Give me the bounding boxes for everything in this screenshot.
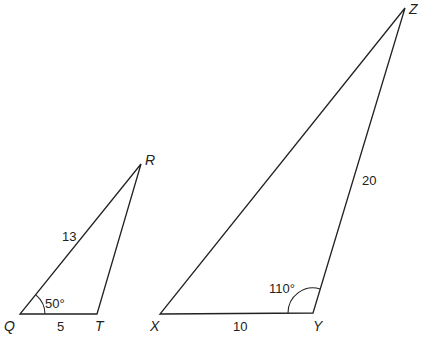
side-qt-label: 5	[57, 319, 64, 334]
vertex-label-t: T	[95, 318, 105, 334]
vertex-label-q: Q	[4, 318, 15, 334]
vertex-label-y: Y	[313, 318, 324, 334]
vertex-label-r: R	[145, 152, 155, 168]
angle-y-label: 110°	[269, 281, 295, 296]
vertex-label-z: Z	[408, 1, 418, 17]
triangle-xyz: X Y Z 10 20 110°	[149, 1, 418, 334]
side-xy-label: 10	[233, 319, 247, 334]
angle-q-arc	[36, 295, 45, 314]
side-yz-label: 20	[362, 173, 376, 188]
triangle-qrt: Q T R 13 5 50°	[4, 152, 155, 334]
diagram-canvas: Q T R 13 5 50° X Y Z 10 20 110°	[0, 0, 428, 350]
vertex-label-x: X	[149, 318, 160, 334]
triangle-qrt-outline	[20, 164, 141, 314]
triangle-xyz-outline	[160, 8, 405, 314]
side-qr-label: 13	[62, 229, 76, 244]
angle-q-label: 50°	[45, 296, 65, 311]
